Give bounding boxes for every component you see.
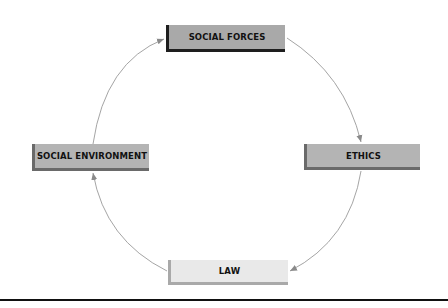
node-label: ETHICS bbox=[346, 151, 381, 161]
node-law: LAW bbox=[168, 260, 288, 285]
arrow-environment-to-forces bbox=[93, 39, 164, 144]
node-social-environment: SOCIAL ENVIRONMENT bbox=[32, 144, 149, 171]
arrow-forces-to-ethics bbox=[287, 38, 361, 142]
node-social-forces: SOCIAL FORCES bbox=[166, 25, 285, 52]
cycle-diagram: SOCIAL FORCES ETHICS LAW SOCIAL ENVIRONM… bbox=[0, 0, 448, 308]
bottom-rule bbox=[0, 299, 448, 301]
node-ethics: ETHICS bbox=[304, 144, 420, 170]
node-label: SOCIAL ENVIRONMENT bbox=[37, 151, 147, 161]
arrow-law-to-environment bbox=[93, 173, 167, 271]
arrow-ethics-to-law bbox=[290, 171, 361, 271]
node-label: LAW bbox=[219, 266, 240, 276]
node-label: SOCIAL FORCES bbox=[189, 32, 266, 42]
